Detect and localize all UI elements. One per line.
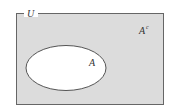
venn-diagram: U A A c [0, 0, 173, 110]
complement-superscript: c [146, 24, 149, 30]
set-a-ellipse [26, 46, 106, 91]
universe-label: U [27, 8, 35, 19]
complement-label: A [138, 25, 146, 36]
set-a-label: A [88, 57, 96, 68]
